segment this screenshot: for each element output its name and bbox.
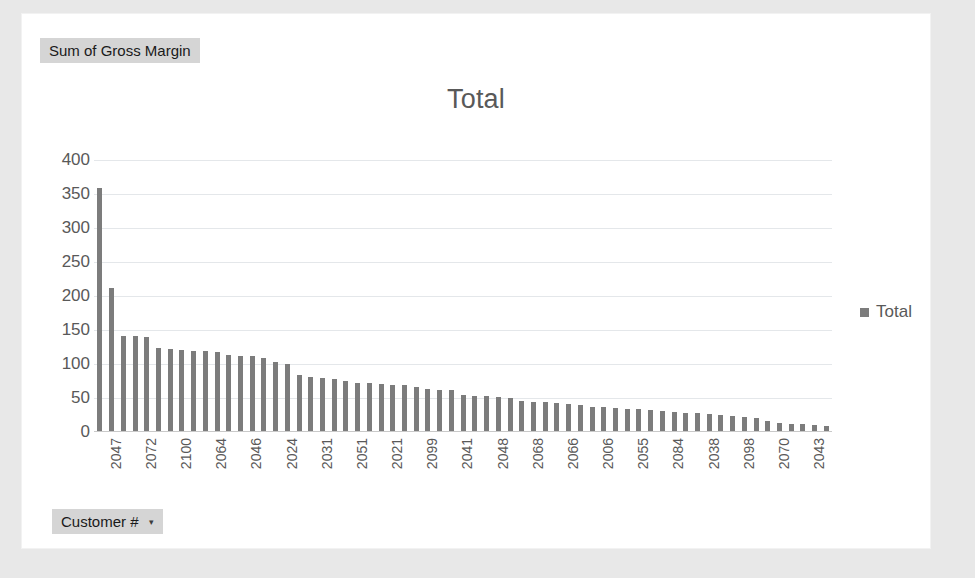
bar[interactable] (97, 188, 102, 431)
bar[interactable] (273, 362, 278, 431)
x-tick-slot (610, 436, 622, 506)
bar[interactable] (156, 348, 161, 431)
bar[interactable] (461, 395, 466, 431)
x-tick-slot: 2070 (762, 436, 774, 506)
bar[interactable] (672, 412, 677, 431)
bar[interactable] (683, 413, 688, 431)
bar[interactable] (590, 407, 595, 431)
x-tick-slot (785, 436, 797, 506)
bar-slot (211, 159, 223, 431)
axis-field-label: Customer # (61, 509, 139, 534)
x-tick-slot (469, 436, 481, 506)
bar[interactable] (695, 413, 700, 431)
bar[interactable] (660, 411, 665, 431)
x-tick-slot (668, 436, 680, 506)
bar[interactable] (566, 404, 571, 431)
bar-slot (774, 159, 786, 431)
bar[interactable] (285, 364, 290, 431)
bar[interactable] (226, 355, 231, 431)
x-tick-slot (809, 436, 821, 506)
bar[interactable] (648, 410, 653, 431)
bar[interactable] (777, 423, 782, 431)
x-tick-slot: 2055 (621, 436, 633, 506)
bar[interactable] (308, 377, 313, 431)
bar[interactable] (320, 378, 325, 431)
bar[interactable] (578, 405, 583, 431)
bar[interactable] (554, 403, 559, 431)
bar[interactable] (765, 421, 770, 431)
bar[interactable] (133, 336, 138, 431)
axis-field-button[interactable]: Customer # ▾ (52, 509, 163, 534)
bar-slot (399, 159, 411, 431)
bar[interactable] (625, 409, 630, 431)
bar[interactable] (531, 402, 536, 431)
bar[interactable] (121, 336, 126, 431)
bar-series-total[interactable] (94, 159, 832, 431)
bar[interactable] (379, 384, 384, 431)
bar[interactable] (508, 398, 513, 431)
x-tick-slot: 2047 (94, 436, 106, 506)
bar[interactable] (543, 402, 548, 431)
x-tick-slot: 2051 (340, 436, 352, 506)
bar-slot (199, 159, 211, 431)
bar-slot (504, 159, 516, 431)
bar[interactable] (109, 288, 114, 431)
bar[interactable] (484, 396, 489, 431)
bar-slot (340, 159, 352, 431)
y-axis-tick-labels: 400350300250200150100500 (22, 154, 90, 438)
bar-slot (164, 159, 176, 431)
bar[interactable] (472, 396, 477, 431)
bar-slot (422, 159, 434, 431)
bar-slot (106, 159, 118, 431)
bar[interactable] (754, 418, 759, 431)
x-tick-slot (633, 436, 645, 506)
bar[interactable] (496, 397, 501, 431)
bar-slot (129, 159, 141, 431)
bar[interactable] (718, 415, 723, 431)
bar[interactable] (601, 407, 606, 431)
bar[interactable] (355, 383, 360, 431)
category-axis-line (94, 431, 832, 432)
bar[interactable] (250, 356, 255, 431)
bar[interactable] (742, 417, 747, 431)
bar[interactable] (800, 424, 805, 431)
x-tick-slot: 2068 (516, 436, 528, 506)
bar[interactable] (449, 390, 454, 431)
bar[interactable] (425, 389, 430, 431)
pivot-chart-card: Sum of Gross Margin Total 40035030025020… (22, 14, 930, 548)
x-tick-slot (387, 436, 399, 506)
bar[interactable] (402, 385, 407, 431)
bar[interactable] (707, 414, 712, 431)
bar[interactable] (613, 408, 618, 431)
bar[interactable] (191, 351, 196, 431)
bar[interactable] (168, 349, 173, 431)
x-tick-slot (422, 436, 434, 506)
bar[interactable] (179, 350, 184, 431)
bar[interactable] (343, 381, 348, 431)
bar[interactable] (636, 409, 641, 431)
bar[interactable] (297, 375, 302, 431)
x-tick-slot (328, 436, 340, 506)
bar[interactable] (437, 390, 442, 431)
plot-wrapper: 400350300250200150100500 204720722100206… (22, 14, 930, 548)
bar[interactable] (390, 385, 395, 431)
x-tick-slot (364, 436, 376, 506)
bar-slot (317, 159, 329, 431)
y-axis-tick: 200 (22, 286, 90, 306)
bar[interactable] (203, 351, 208, 431)
bar-slot (621, 159, 633, 431)
bar[interactable] (367, 383, 372, 431)
chart-legend[interactable]: Total (860, 302, 912, 322)
bar[interactable] (332, 379, 337, 431)
bar[interactable] (414, 387, 419, 431)
bar[interactable] (144, 337, 149, 431)
bar[interactable] (730, 416, 735, 431)
bar[interactable] (789, 424, 794, 431)
x-tick-slot (528, 436, 540, 506)
x-tick-slot (492, 436, 504, 506)
bar[interactable] (261, 358, 266, 431)
bar[interactable] (519, 401, 524, 431)
bar[interactable] (238, 356, 243, 431)
bar[interactable] (215, 352, 220, 431)
y-axis-tick: 250 (22, 252, 90, 272)
